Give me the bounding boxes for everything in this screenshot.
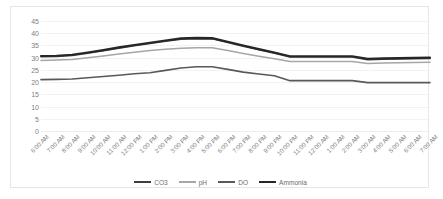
legend-label: Ammonia [279,179,307,186]
y-axis-tick-label: 0 [13,128,39,135]
series-plot [41,21,430,131]
legend-label: CO3 [154,179,168,186]
y-axis-tick-label: 25 [13,66,39,73]
chart-legend: CO3pHDOAmmonia [11,175,430,189]
x-axis: 6:00 AM7:00 AM8:00 AM9:00 AM10:00 AM11:0… [41,133,430,179]
y-axis-tick-label: 45 [13,18,39,25]
y-axis-tick-label: 20 [13,79,39,86]
legend-label: DO [238,179,248,186]
y-axis-tick-label: 10 [13,103,39,110]
chart-container: 051015202530354045 6:00 AM7:00 AM8:00 AM… [10,6,429,188]
y-axis-tick-label: 5 [13,115,39,122]
legend-label: pH [199,179,207,186]
legend-swatch-icon [218,181,235,183]
plot-area [41,21,430,131]
legend-swatch-icon [179,181,196,183]
legend-item-ammonia[interactable]: Ammonia [259,179,307,186]
y-axis-tick-label: 40 [13,30,39,37]
legend-item-co3[interactable]: CO3 [134,179,168,186]
y-axis-tick-label: 35 [13,42,39,49]
series-line-do [41,67,430,83]
legend-item-ph[interactable]: pH [179,179,207,186]
y-axis-tick-label: 30 [13,54,39,61]
legend-swatch-icon [134,181,151,183]
legend-item-do[interactable]: DO [218,179,248,186]
legend-swatch-icon [259,181,276,183]
y-axis-tick-label: 15 [13,91,39,98]
y-axis: 051015202530354045 [11,21,39,131]
